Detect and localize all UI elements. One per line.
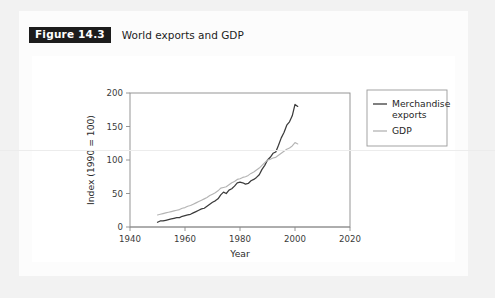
svg-text:0: 0: [118, 222, 123, 232]
svg-text:200: 200: [107, 88, 123, 98]
figure-card: Figure 14.3 World exports and GDP 194019…: [19, 11, 468, 276]
chart-legend: MerchandiseexportsGDP: [367, 90, 451, 146]
chart-series: [158, 104, 298, 222]
svg-text:1940: 1940: [119, 234, 141, 244]
y-axis-ticks: 050100150200: [107, 88, 130, 232]
svg-text:Year: Year: [229, 248, 250, 259]
x-axis-ticks: 19401960198020002020: [119, 227, 361, 244]
svg-text:exports: exports: [392, 109, 427, 120]
svg-text:Index (1990 = 100): Index (1990 = 100): [85, 115, 96, 205]
chart-stage: 19401960198020002020 050100150200 YearIn…: [32, 56, 455, 262]
chart-axes: [130, 93, 350, 227]
svg-text:1980: 1980: [229, 234, 251, 244]
svg-text:GDP: GDP: [392, 125, 412, 136]
svg-text:50: 50: [112, 189, 123, 199]
svg-text:150: 150: [107, 122, 123, 132]
chart-panel: 19401960198020002020 050100150200 YearIn…: [32, 56, 455, 262]
svg-text:2020: 2020: [339, 234, 361, 244]
svg-text:1960: 1960: [174, 234, 196, 244]
line-chart: 19401960198020002020 050100150200 YearIn…: [32, 56, 455, 262]
figure-number-badge: Figure 14.3: [29, 27, 111, 43]
svg-text:Merchandise: Merchandise: [392, 98, 451, 109]
figure-caption: Figure 14.3 World exports and GDP: [29, 26, 244, 43]
figure-caption-text: World exports and GDP: [122, 29, 244, 41]
svg-text:2000: 2000: [284, 234, 306, 244]
svg-text:100: 100: [107, 155, 123, 165]
